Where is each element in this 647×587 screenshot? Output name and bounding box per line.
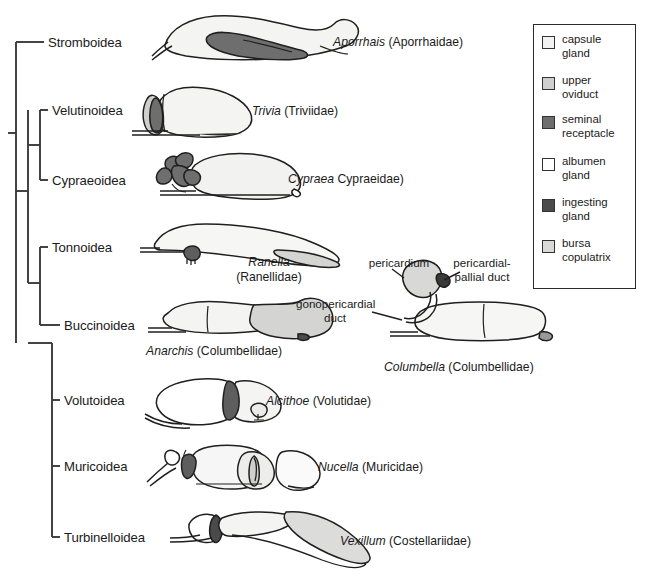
legend-item-seminal-receptacle: seminalreceptacle	[542, 113, 632, 140]
taxon-genus-anarchis: Anarchis	[146, 344, 193, 358]
taxon-label-columbella: Columbella (Columbellidae)	[384, 360, 534, 374]
taxon-genus-aporrhais: Aporrhais	[333, 35, 385, 49]
annotation-pericardium: pericardium	[360, 256, 438, 270]
taxon-genus-columbella: Columbella	[384, 360, 445, 374]
legend-item-ingesting-gland: ingestinggland	[542, 196, 632, 223]
legend-swatch-capsule-gland	[542, 36, 555, 49]
taxon-genus-vexillum: Vexillum	[340, 534, 386, 548]
taxon-genus-cypraea: Cypraea	[288, 172, 334, 186]
taxon-genus-trivia: Trivia	[252, 104, 281, 118]
taxon-family-vexillum: (Costellariidae)	[389, 534, 471, 548]
legend-swatch-ingesting-gland	[542, 199, 555, 212]
taxon-label-trivia: Trivia (Triviidae)	[252, 104, 338, 118]
taxon-label-nucella: Nucella (Muricidae)	[318, 460, 423, 474]
taxon-label-anarchis: Anarchis (Columbellidae)	[146, 344, 282, 358]
taxon-label-ranella: Ranella (Ranellidae)	[214, 255, 324, 285]
leader-gonopericardial-duct	[372, 312, 402, 320]
taxon-label-aporrhais: Aporrhais (Aporrhaidae)	[333, 35, 463, 49]
taxon-family-ranella: (Ranellidae)	[236, 270, 302, 284]
legend-item-albumen-gland: albumengland	[542, 155, 632, 182]
legend-label-upper-oviduct: upperoviduct	[562, 74, 632, 101]
taxon-family-columbella: (Columbellidae)	[448, 360, 533, 374]
legend-label-seminal-receptacle: seminalreceptacle	[562, 113, 632, 140]
leader-pericardium	[392, 269, 404, 278]
taxon-label-alcithoe: Alcithoe (Volutidae)	[266, 394, 371, 408]
legend-item-capsule-gland: capsulegland	[542, 33, 632, 60]
legend-swatch-seminal-receptacle	[542, 116, 555, 129]
legend-label-bursa-copulatrix: bursacopulatrix	[562, 237, 632, 264]
legend-label-ingesting-gland: ingestinggland	[562, 196, 632, 223]
phylogeny-figure: Stromboidea Velutinoidea Cypraeoidea Ton…	[0, 0, 647, 587]
annotation-pericardial-pallial-duct: pericardial-pallial duct	[446, 256, 518, 284]
legend-label-capsule-gland: capsulegland	[562, 33, 632, 60]
taxon-genus-alcithoe: Alcithoe	[266, 394, 309, 408]
taxon-genus-nucella: Nucella	[318, 460, 359, 474]
legend-swatch-bursa-copulatrix	[542, 240, 555, 253]
taxon-family-alcithoe: (Volutidae)	[313, 394, 371, 408]
legend-swatch-albumen-gland	[542, 158, 555, 171]
annotation-gonopericardial-duct: gonopericardialduct	[296, 297, 374, 325]
taxon-family-cypraea: Cypraeidae)	[337, 172, 403, 186]
legend-item-upper-oviduct: upperoviduct	[542, 74, 632, 101]
taxon-family-trivia: (Triviidae)	[284, 104, 338, 118]
taxon-label-cypraea: Cypraea Cypraeidae)	[288, 172, 404, 186]
legend-label-albumen-gland: albumengland	[562, 155, 632, 182]
taxon-family-aporrhais: (Aporrhaidae)	[389, 35, 464, 49]
taxon-family-anarchis: (Columbellidae)	[197, 344, 282, 358]
legend-box: capsulegland upperoviduct seminalrecepta…	[533, 24, 636, 289]
taxon-label-vexillum: Vexillum (Costellariidae)	[340, 534, 471, 548]
taxon-family-nucella: (Muricidae)	[362, 460, 423, 474]
legend-item-bursa-copulatrix: bursacopulatrix	[542, 237, 632, 264]
legend-swatch-upper-oviduct	[542, 77, 555, 90]
taxon-genus-ranella: Ranella	[248, 255, 289, 269]
